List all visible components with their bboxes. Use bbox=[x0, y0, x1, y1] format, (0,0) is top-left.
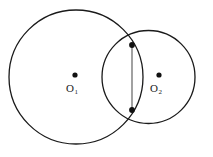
label-o2-base: O bbox=[150, 82, 158, 94]
circle-small bbox=[102, 31, 195, 124]
geometry-diagram-canvas: O1 O2 bbox=[0, 0, 213, 157]
label-center-o1: O1 bbox=[66, 83, 77, 94]
label-o1-base: O bbox=[66, 82, 74, 94]
label-center-o2: O2 bbox=[150, 83, 161, 94]
two-circles-figure bbox=[0, 0, 213, 157]
center-dot-o2 bbox=[156, 72, 161, 77]
intersection-dot-top bbox=[129, 42, 135, 48]
label-o2-subscript: 2 bbox=[158, 88, 162, 96]
intersection-dot-bottom bbox=[129, 107, 135, 113]
center-dot-o1 bbox=[72, 72, 77, 77]
label-o1-subscript: 1 bbox=[74, 88, 78, 96]
